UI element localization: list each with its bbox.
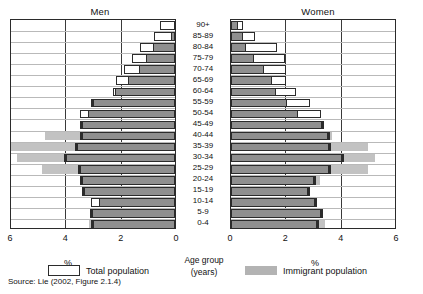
- bar-total-outline: [116, 76, 175, 85]
- bar-total-outline: [124, 65, 175, 74]
- bar-total-outline: [231, 154, 342, 163]
- table-row: [231, 186, 395, 197]
- bar-total-outline: [231, 88, 296, 97]
- bar-total-outline: [93, 99, 175, 108]
- table-row: [11, 64, 175, 75]
- legend-label-immigrant: Immigrant population: [283, 266, 367, 276]
- table-row: [231, 197, 395, 208]
- table-row: [11, 131, 175, 142]
- table-row: [11, 86, 175, 97]
- bar-total-outline: [231, 54, 285, 63]
- table-row: [231, 164, 395, 175]
- age-group-label: 70-74: [176, 64, 230, 73]
- bar-total-outline: [154, 32, 175, 41]
- bar-total-outline: [82, 176, 175, 185]
- bar-total-outline: [82, 132, 175, 141]
- bar-total-outline: [231, 165, 329, 174]
- bar-total-outline: [231, 176, 314, 185]
- bar-total-outline: [231, 43, 277, 52]
- table-row: [11, 31, 175, 42]
- bar-total-outline: [82, 121, 175, 130]
- axis-tick-label: 4: [331, 233, 351, 243]
- population-pyramid-chart: Men Women 90+85-8980-8475-7970-7465-6960…: [0, 0, 423, 294]
- table-row: [11, 53, 175, 64]
- bar-total-outline: [231, 121, 322, 130]
- bar-total-outline: [231, 187, 308, 196]
- bar-total-population: [322, 121, 324, 130]
- table-row: [11, 208, 175, 219]
- legend-swatch-immigrant: [245, 266, 277, 275]
- axis-tick-label: 4: [55, 233, 75, 243]
- panel-title-men: Men: [40, 6, 160, 17]
- age-group-label: 0-4: [176, 218, 230, 227]
- table-row: [11, 175, 175, 186]
- age-group-label: 90+: [176, 20, 230, 29]
- axis-tick-label: 0: [220, 233, 240, 243]
- bar-total-outline: [231, 65, 286, 74]
- bar-total-outline: [231, 220, 317, 229]
- table-row: [11, 186, 175, 197]
- table-row: [231, 108, 395, 119]
- table-row: [231, 64, 395, 75]
- bar-total-population: [342, 154, 344, 163]
- axis-tick-label: 6: [386, 233, 406, 243]
- table-row: [231, 119, 395, 130]
- table-row: [11, 108, 175, 119]
- bar-total-outline: [91, 198, 175, 207]
- table-row: [231, 53, 395, 64]
- bar-total-population: [314, 176, 316, 185]
- age-group-axis: 90+85-8980-8475-7970-7465-6960-6455-5950…: [176, 19, 230, 229]
- bar-total-population: [315, 198, 317, 207]
- bar-total-outline: [77, 143, 175, 152]
- age-group-label: 40-44: [176, 130, 230, 139]
- bar-total-outline: [231, 32, 255, 41]
- bar-total-outline: [84, 187, 175, 196]
- bar-total-population: [328, 132, 330, 141]
- table-row: [231, 42, 395, 53]
- bar-total-outline: [92, 209, 175, 218]
- bar-total-outline: [160, 21, 175, 30]
- axis-tick-label: 2: [111, 233, 131, 243]
- axis-tick-label: 6: [0, 233, 20, 243]
- bar-total-outline: [231, 198, 315, 207]
- age-group-label: 30-34: [176, 152, 230, 161]
- source-citation: Source: Lie (2002, Figure 2.1.4): [8, 277, 121, 286]
- bar-total-population: [308, 187, 310, 196]
- table-row: [11, 219, 175, 229]
- bar-total-population: [329, 143, 331, 152]
- bar-total-population: [321, 209, 323, 218]
- plot-area-men: [10, 19, 176, 229]
- table-row: [11, 197, 175, 208]
- bar-total-outline: [231, 21, 243, 30]
- table-row: [11, 42, 175, 53]
- axis-tick-label: 2: [275, 233, 295, 243]
- table-row: [11, 153, 175, 164]
- age-group-label: 80-84: [176, 42, 230, 51]
- bar-total-outline: [231, 209, 321, 218]
- age-group-label: 55-59: [176, 97, 230, 106]
- bar-total-outline: [231, 110, 321, 119]
- bar-total-outline: [231, 76, 286, 85]
- age-group-label: 75-79: [176, 53, 230, 62]
- table-row: [11, 164, 175, 175]
- bar-total-population: [329, 165, 331, 174]
- bar-total-outline: [231, 99, 310, 108]
- table-row: [231, 208, 395, 219]
- table-row: [231, 142, 395, 153]
- age-group-label: 65-69: [176, 75, 230, 84]
- table-row: [231, 97, 395, 108]
- plot-area-women: [230, 19, 396, 229]
- age-group-label: 50-54: [176, 108, 230, 117]
- table-row: [11, 142, 175, 153]
- table-row: [231, 86, 395, 97]
- table-row: [11, 119, 175, 130]
- bar-total-outline: [132, 54, 175, 63]
- bar-total-outline: [93, 220, 175, 229]
- table-row: [11, 97, 175, 108]
- table-row: [11, 75, 175, 86]
- bar-total-outline: [113, 88, 175, 97]
- table-row: [11, 20, 175, 31]
- table-row: [231, 153, 395, 164]
- age-group-label: 45-49: [176, 119, 230, 128]
- age-group-label: 10-14: [176, 196, 230, 205]
